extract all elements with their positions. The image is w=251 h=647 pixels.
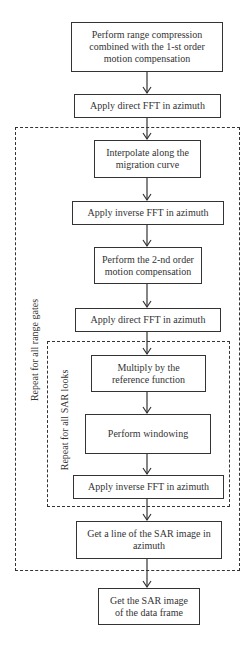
step-get-line: Get a line of the SAR image in azimuth — [76, 521, 222, 559]
step-2nd-order-moco: Perform the 2-nd order motion compensati… — [94, 247, 202, 284]
step-direct-fft-1: Apply direct FFT in azimuth — [74, 94, 221, 118]
step-inverse-fft-2: Apply inverse FFT in azimuth — [73, 475, 224, 499]
step-direct-fft-2: Apply direct FFT in azimuth — [75, 308, 221, 332]
step-range-compression: Perform range compression combined with … — [71, 22, 223, 72]
step-windowing: Perform windowing — [85, 414, 211, 454]
step-interpolate: Interpolate along the migration curve — [94, 140, 201, 178]
step-multiply-reference: Multiply by the reference function — [91, 355, 206, 392]
step-get-sar-image: Get the SAR image of the data frame — [98, 588, 200, 625]
step-inverse-fft-1: Apply inverse FFT in azimuth — [72, 201, 224, 225]
